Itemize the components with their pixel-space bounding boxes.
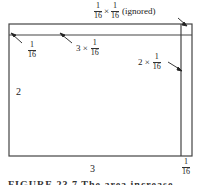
label-bottom-right-fraction: 1 16 [182, 158, 190, 176]
expanded-rectangle [9, 24, 192, 156]
figure-caption: FIGURE 23.7 The area increase [8, 179, 173, 185]
label-right-strip: 2 × 1 16 [138, 53, 161, 71]
fraction: 1 16 [91, 39, 99, 57]
label-height: 2 [16, 86, 21, 97]
diagram-canvas [0, 0, 202, 185]
label-top-strip: 3 × 1 16 [76, 39, 99, 57]
label-width: 3 [90, 163, 95, 174]
fraction: 1 16 [153, 53, 161, 71]
label-corner-ignored: 1 16 × 1 16 (ignored) [94, 2, 156, 20]
label-top-left-fraction: 1 16 [28, 41, 36, 59]
